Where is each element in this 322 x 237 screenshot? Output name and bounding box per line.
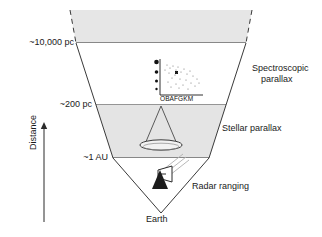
band-above-10000pc — [70, 10, 252, 43]
distance-ladder-figure: ~10,000 pc ~200 pc ~1 AU Spectroscopic p… — [0, 0, 322, 237]
method-label-spectroscopic-parallax-line2: parallax — [261, 74, 293, 85]
method-label-spectroscopic-parallax-line1: Spectroscopic — [252, 63, 309, 74]
method-label-radar-ranging: Radar ranging — [192, 181, 249, 192]
tick-label-200pc: ~200 pc — [20, 99, 92, 110]
band-above-10000pc-fill — [70, 10, 252, 43]
hr-spectral-class-labels: OBAFGKM — [160, 95, 193, 102]
method-label-stellar-parallax: Stellar parallax — [222, 123, 282, 134]
tick-label-10000pc: ~10,000 pc — [0, 37, 74, 48]
tick-label-1au: ~1 AU — [40, 152, 108, 163]
earth-orbit-ellipse-icon — [140, 140, 182, 150]
distance-axis-arrow — [41, 122, 47, 222]
earth-label: Earth — [146, 214, 168, 225]
figure-canvas — [0, 0, 322, 237]
distance-axis-label: Distance — [28, 115, 38, 150]
arrow-up-icon — [41, 122, 47, 129]
